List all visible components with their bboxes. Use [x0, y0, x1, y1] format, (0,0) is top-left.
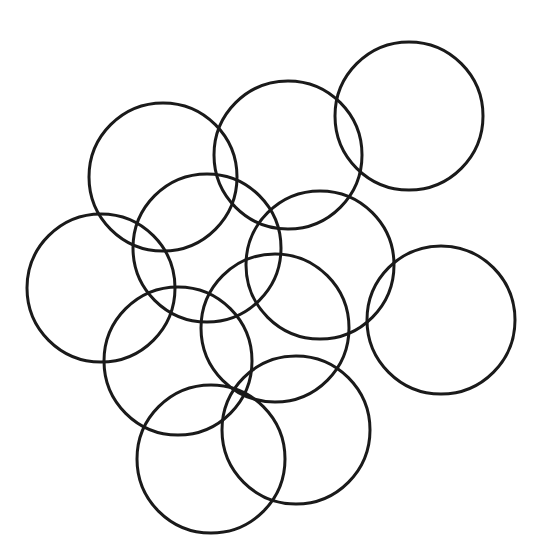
circle-center-right [246, 191, 394, 339]
circle-bottom-left [137, 385, 285, 533]
circle-lower-left [104, 287, 252, 435]
circle-left [27, 214, 175, 362]
circle-top-right [335, 42, 483, 190]
circle-upper-left [89, 103, 237, 251]
circle-top-center [214, 81, 362, 229]
diagram-canvas [0, 0, 541, 552]
circle-right [367, 246, 515, 394]
circle-bottom-right [222, 356, 370, 504]
overlapping-circles-diagram [0, 0, 541, 552]
